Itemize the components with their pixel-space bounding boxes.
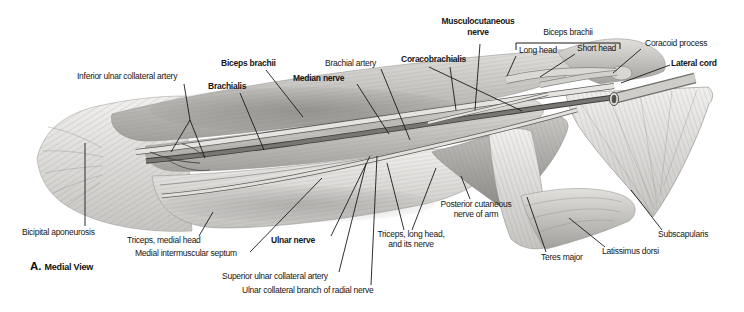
label-musculocutaneous-nerve: Musculocutaneous nerve (442, 16, 515, 38)
label-lateral-cord: Lateral cord (671, 59, 717, 69)
label-posterior-cutaneous-nerve: Posterior cutaneous nerve of arm (441, 200, 512, 219)
label-biceps-brachii-bracket: Biceps brachii (543, 28, 592, 38)
label-musculocutaneous-nerve-line2: nerve (442, 27, 515, 38)
view-caption-title: Medial View (45, 262, 94, 272)
label-coracoid-process: Coracoid process (645, 39, 707, 49)
anatomical-illustration (0, 0, 744, 312)
label-teres-major: Teres major (541, 253, 583, 263)
label-bicipital-aponeurosis: Bicipital aponeurosis (22, 228, 95, 238)
label-brachial-artery: Brachial artery (325, 59, 376, 69)
label-biceps-brachii-left: Biceps brachii (221, 59, 276, 69)
view-caption: A. Medial View (30, 260, 93, 272)
view-caption-letter: A. (30, 260, 42, 272)
label-coracobrachialis: Coracobrachialis (401, 55, 466, 65)
label-triceps-long-head-line2: and its nerve (377, 240, 444, 250)
label-ulnar-nerve: Ulnar nerve (271, 236, 315, 246)
label-musculocutaneous-nerve-line1: Musculocutaneous (442, 16, 515, 27)
label-inferior-ulnar-collateral-artery: Inferior ulnar collateral artery (77, 72, 177, 82)
label-subscapularis: Subscapularis (658, 230, 708, 240)
label-superior-ulnar-collateral-artery: Superior ulnar collateral artery (222, 272, 328, 282)
label-ulnar-collateral-branch: Ulnar collateral branch of radial nerve (242, 286, 374, 296)
label-brachialis: Brachialis (208, 82, 246, 92)
label-triceps-long-head: Triceps, long head, and its nerve (377, 230, 444, 249)
figure-medial-view-arm: Inferior ulnar collateral artery Biceps … (0, 0, 744, 312)
label-triceps-medial-head: Triceps, medial head (127, 236, 201, 246)
label-medial-intermuscular-septum: Medial intermuscular septum (135, 249, 237, 259)
label-posterior-cutaneous-line2: nerve of arm (441, 210, 512, 220)
label-short-head: Short head (577, 44, 616, 54)
label-latissimus-dorsi: Latissimus dorsi (602, 247, 659, 257)
label-median-nerve: Median nerve (293, 74, 344, 84)
label-long-head: Long head (519, 46, 557, 56)
